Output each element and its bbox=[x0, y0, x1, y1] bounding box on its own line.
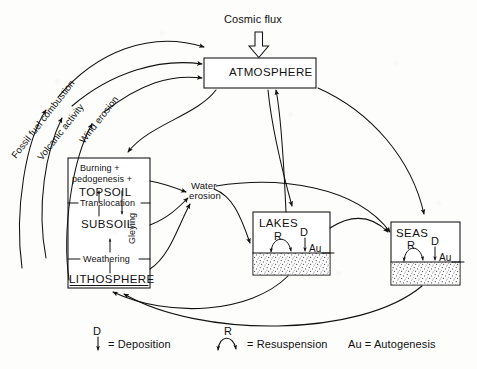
lakes-autogenesis-symbol: Au bbox=[309, 243, 321, 254]
cosmic-flux-label: Cosmic flux bbox=[224, 13, 282, 25]
lakes-resuspension-symbol: R bbox=[274, 230, 282, 242]
water-erosion-label-line2: erosion bbox=[189, 191, 221, 202]
flow-atmosphere-to-seas bbox=[318, 88, 424, 214]
flow-atmosphere-to-soil bbox=[128, 90, 216, 152]
seas-sediment bbox=[392, 262, 460, 284]
seas-autogenesis-symbol: Au bbox=[439, 252, 451, 263]
legend-resuspension-arc bbox=[218, 338, 236, 350]
flow-atmosphere-to-lakes bbox=[268, 90, 292, 206]
subsoil-label: SUBSOIL bbox=[81, 218, 134, 231]
weathering-label: Weathering bbox=[83, 254, 130, 264]
translocation-label: Translocation bbox=[80, 198, 135, 208]
legend-deposition-symbol: D bbox=[93, 325, 101, 337]
soil-burning-label: Burning + bbox=[80, 163, 120, 173]
flow-fossil-fuel-combustion-upper bbox=[58, 41, 204, 97]
flow-lakes-to-atmosphere bbox=[276, 90, 286, 212]
seas-deposition-symbol: D bbox=[431, 235, 439, 247]
flow-wind-erosion-upper bbox=[104, 77, 202, 112]
cosmic-flux-block-arrow bbox=[249, 32, 269, 58]
flow-topsoil-to-water-erosion bbox=[150, 181, 186, 192]
flow-lakes-to-seas bbox=[330, 219, 388, 232]
flow-seas-sediment-to-lithosphere bbox=[124, 286, 422, 326]
legend-resuspension-symbol: R bbox=[224, 325, 232, 337]
soil-pedogenesis-label: pedogenesis + bbox=[72, 174, 132, 184]
atmosphere-label: ATMOSPHERE bbox=[229, 66, 313, 79]
seas-label: SEAS bbox=[396, 227, 428, 240]
lakes-label: LAKES bbox=[259, 217, 298, 230]
topsoil-label: TOPSOIL bbox=[79, 186, 131, 199]
lakes-deposition-symbol: D bbox=[300, 226, 308, 238]
legend-autogenesis-text: Au = Autogenesis bbox=[348, 338, 436, 350]
diagram-artwork bbox=[0, 0, 477, 369]
legend-deposition-text: = Deposition bbox=[108, 338, 171, 350]
diagram-canvas: Cosmic flux ATMOSPHERE Fossil fuel combu… bbox=[0, 0, 477, 369]
lithosphere-label: LITHOSPHERE bbox=[69, 273, 155, 286]
lakes-sediment bbox=[254, 253, 330, 274]
flow-volcanic-activity-upper bbox=[72, 63, 202, 106]
legend-resuspension-text: = Resuspension bbox=[247, 338, 328, 350]
seas-resuspension-symbol: R bbox=[407, 239, 415, 251]
